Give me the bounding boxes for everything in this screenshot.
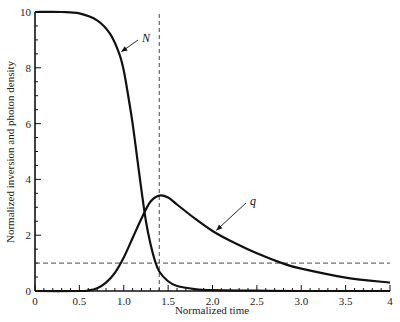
y-tick-label: 4: [26, 173, 32, 185]
chart: 00.51.01.52.02.53.03.540246810 Nq Normal…: [0, 0, 400, 322]
x-tick-label: 0.5: [73, 295, 87, 307]
y-tick-label: 6: [26, 118, 32, 130]
curves: [35, 12, 390, 291]
y-tick-label: 2: [26, 229, 32, 241]
x-tick-label: 1.5: [161, 295, 175, 307]
curve-q: [35, 195, 390, 291]
curve-N: [35, 12, 390, 291]
x-tick-label: 3.5: [339, 295, 353, 307]
x-tick-label: 2.5: [250, 295, 264, 307]
x-tick-label: 4: [387, 295, 393, 307]
y-tick-label: 8: [26, 62, 32, 74]
x-axis-label: Normalized time: [175, 304, 249, 316]
x-tick-label: 0: [32, 295, 38, 307]
annotation-arrow-q: [216, 203, 246, 230]
axes: 00.51.01.52.02.53.03.540246810: [20, 6, 393, 307]
y-axis-label: Normalized inversion and photon density: [4, 60, 16, 243]
annotation-label-q: q: [250, 194, 256, 208]
y-tick-label: 0: [26, 285, 32, 297]
annotations: Nq: [121, 31, 256, 230]
y-tick-label: 10: [20, 6, 32, 18]
arrowhead-icon: [121, 46, 127, 52]
x-tick-label: 1.0: [117, 295, 131, 307]
reference-lines: [35, 14, 390, 291]
x-tick-label: 3.0: [294, 295, 308, 307]
annotation-label-N: N: [141, 31, 151, 45]
